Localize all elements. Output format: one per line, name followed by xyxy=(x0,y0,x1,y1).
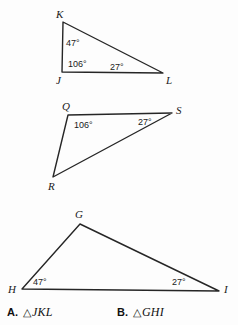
answer-choice-b[interactable]: B. △ GHI xyxy=(117,305,164,320)
vertex-label-i: I xyxy=(223,283,229,295)
triangle-ghi: G H I 47° 27° xyxy=(7,208,229,295)
vertex-label-j: J xyxy=(56,74,62,86)
triangle-qrs-outline xyxy=(53,113,172,177)
answer-a-letter: A. xyxy=(7,306,18,318)
geometry-question-figure: K J L 47° 106° 27° Q S R 106° 27° G H I … xyxy=(0,0,238,325)
angle-label-k-47: 47° xyxy=(66,38,80,48)
answer-choice-a[interactable]: A. △ JKL xyxy=(7,305,53,320)
angle-label-q-106: 106° xyxy=(74,120,93,130)
triangle-jkl: K J L 47° 106° 27° xyxy=(55,8,172,86)
angle-label-i-27: 27° xyxy=(172,277,186,287)
vertex-label-r: R xyxy=(47,180,55,192)
answer-b-letter: B. xyxy=(117,306,128,318)
vertex-label-k: K xyxy=(55,8,64,20)
angle-label-h-47: 47° xyxy=(33,277,47,287)
angle-label-j-106: 106° xyxy=(68,59,87,69)
triangle-ghi-outline xyxy=(22,224,219,291)
answer-b-label: GHI xyxy=(142,305,164,320)
vertex-label-l: L xyxy=(165,74,172,86)
vertex-label-h: H xyxy=(7,283,17,295)
vertex-label-q: Q xyxy=(62,100,70,112)
answer-a-label: JKL xyxy=(32,305,53,320)
triangle-icon: △ xyxy=(23,306,31,319)
triangle-qrs: Q S R 106° 27° xyxy=(47,100,182,192)
vertex-label-s: S xyxy=(176,104,182,116)
angle-label-l-27: 27° xyxy=(110,62,124,72)
angle-label-s-27: 27° xyxy=(138,117,152,127)
triangle-icon: △ xyxy=(133,306,141,319)
vertex-label-g: G xyxy=(75,208,83,220)
triangles-diagram: K J L 47° 106° 27° Q S R 106° 27° G H I … xyxy=(0,0,238,325)
answer-choices: A. △ JKL B. △ GHI xyxy=(0,303,238,325)
